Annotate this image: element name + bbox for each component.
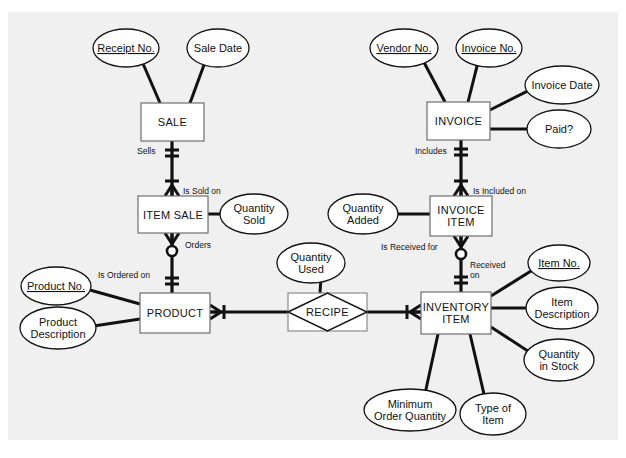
attribute-label: Receipt No.	[97, 42, 154, 54]
attribute-quantity-added[interactable]: QuantityAdded	[328, 194, 398, 234]
relationship-verb-near: Includes	[415, 146, 447, 156]
relationship-verb-far: Is Sold on	[183, 186, 221, 196]
attribute-product-desc[interactable]: ProductDescription	[20, 307, 96, 349]
attribute-quantity-sold[interactable]: QuantitySold	[220, 194, 288, 234]
entity-label: SALE	[158, 116, 187, 128]
associative-entity-label: RECIPE	[306, 306, 349, 318]
attribute-quantity-in-stock[interactable]: Quantityin Stock	[524, 339, 594, 381]
attribute-minimum-order-qty[interactable]: MinimumOrder Quantity	[364, 389, 456, 431]
entity-product[interactable]: PRODUCT	[140, 293, 210, 333]
entity-label: PRODUCT	[147, 307, 204, 319]
attribute-label: Quantityin Stock	[539, 348, 580, 372]
attribute-paid[interactable]: Paid?	[527, 110, 591, 148]
attribute-item-description[interactable]: ItemDescription	[526, 287, 598, 329]
attribute-label: Item No.	[538, 257, 580, 269]
attribute-connector	[320, 282, 321, 293]
attribute-link-quantity-used	[320, 282, 321, 293]
attribute-invoice-no[interactable]: Invoice No.	[456, 29, 522, 67]
er-diagram-figure: SALEITEM SALEPRODUCTINVOICEINVOICEITEMIN…	[0, 0, 626, 458]
entity-invoice-item[interactable]: INVOICEITEM	[430, 196, 492, 236]
entity-label: INVOICE	[435, 115, 482, 127]
relationship-verb-far: Is Ordered on	[98, 270, 150, 280]
relationship-verb-far: Is Included on	[473, 186, 526, 196]
attribute-invoice-date[interactable]: Invoice Date	[525, 66, 599, 104]
associative-entity-recipe[interactable]: RECIPE	[288, 293, 367, 331]
er-diagram-canvas: SALEITEM SALEPRODUCTINVOICEINVOICEITEMIN…	[0, 0, 626, 458]
attribute-vendor-no[interactable]: Vendor No.	[370, 29, 438, 67]
attribute-product-no[interactable]: Product No.	[21, 267, 91, 305]
attribute-label: Sale Date	[194, 42, 242, 54]
attribute-label: QuantityAdded	[343, 202, 384, 226]
attribute-receipt-no[interactable]: Receipt No.	[93, 29, 159, 67]
entity-label: ITEM SALE	[143, 209, 203, 221]
attribute-type-of-item[interactable]: Type ofItem	[460, 393, 526, 435]
attribute-quantity-used[interactable]: QuantityUsed	[277, 243, 345, 283]
entity-invoice[interactable]: INVOICE	[427, 102, 490, 140]
entity-sale[interactable]: SALE	[141, 103, 204, 141]
attribute-label: Vendor No.	[376, 42, 431, 54]
attribute-label: Invoice Date	[531, 79, 592, 91]
attribute-label: Paid?	[545, 123, 573, 135]
attribute-label: Invoice No.	[461, 42, 516, 54]
entity-inventory-item[interactable]: INVENTORYITEM	[421, 292, 491, 334]
entity-item-sale[interactable]: ITEM SALE	[138, 196, 208, 233]
attribute-sale-date[interactable]: Sale Date	[187, 29, 249, 67]
relationship-verb-near: Orders	[185, 240, 211, 250]
diagram-panel	[8, 12, 618, 440]
attribute-item-no[interactable]: Item No.	[528, 245, 590, 281]
attribute-label: Product No.	[27, 280, 85, 292]
relationship-verb-near: Sells	[137, 146, 155, 156]
relationship-verb-near: Is Received for	[381, 242, 438, 252]
